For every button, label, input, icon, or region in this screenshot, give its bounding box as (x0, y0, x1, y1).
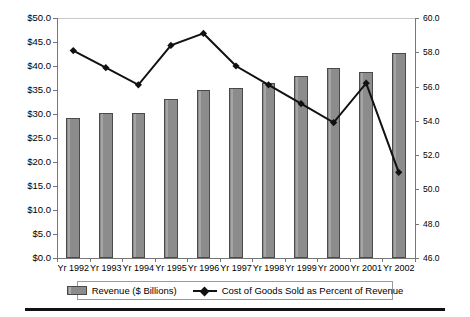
category-label: Yr 2000 (317, 264, 350, 273)
category-tick (90, 258, 91, 262)
right-tick (415, 52, 419, 53)
plot-area (57, 18, 415, 258)
right-tick-label: 60.0 (423, 14, 463, 23)
left-tick-label: $50.0 (5, 13, 51, 23)
category-label: Yr 1999 (285, 264, 318, 273)
right-tick-label: 48.0 (423, 220, 463, 229)
category-label: Yr 1997 (220, 264, 253, 273)
category-tick (220, 258, 221, 262)
bottom-axis-line (57, 258, 415, 259)
left-tick-label: $25.0 (5, 133, 51, 143)
right-tick (415, 87, 419, 88)
left-tick-label: $35.0 (5, 85, 51, 95)
chart-figure: $0.0$5.0$10.0$15.0$20.0$25.0$30.0$35.0$4… (0, 0, 470, 317)
left-tick-label: $10.0 (5, 205, 51, 215)
right-axis-line (415, 18, 416, 258)
bar-swatch-icon (67, 286, 87, 295)
left-tick-label: $5.0 (5, 229, 51, 239)
category-label: Yr 1996 (187, 264, 220, 273)
line-series-cogs-percent (57, 18, 415, 258)
left-tick-label: $30.0 (5, 109, 51, 119)
category-label: Yr 1995 (155, 264, 188, 273)
legend-item-cogs: Cost of Goods Sold as Percent of Revenue (193, 286, 404, 296)
legend-label-revenue: Revenue ($ Billions) (92, 286, 177, 296)
left-tick-label: $15.0 (5, 181, 51, 191)
legend-item-revenue: Revenue ($ Billions) (67, 286, 177, 296)
chart-legend: Revenue ($ Billions) Cost of Goods Sold … (77, 281, 393, 300)
left-tick-label: $20.0 (5, 157, 51, 167)
category-tick (187, 258, 188, 262)
category-tick (252, 258, 253, 262)
right-tick-label: 46.0 (423, 254, 463, 263)
line-marker (395, 169, 402, 176)
right-tick-label: 52.0 (423, 151, 463, 160)
category-label: Yr 2002 (382, 264, 415, 273)
category-tick (350, 258, 351, 262)
line-marker (102, 64, 109, 71)
line-marker (70, 47, 77, 54)
category-tick (155, 258, 156, 262)
category-label: Yr 1998 (252, 264, 285, 273)
right-tick (415, 224, 419, 225)
right-tick (415, 18, 419, 19)
left-tick-label: $40.0 (5, 61, 51, 71)
category-tick (317, 258, 318, 262)
category-tick (57, 258, 58, 262)
category-label: Yr 1994 (122, 264, 155, 273)
right-tick (415, 189, 419, 190)
category-label: Yr 1992 (57, 264, 90, 273)
right-tick-label: 56.0 (423, 83, 463, 92)
right-tick-label: 50.0 (423, 185, 463, 194)
line-path (73, 33, 398, 172)
category-label: Yr 1993 (90, 264, 123, 273)
legend-label-cogs: Cost of Goods Sold as Percent of Revenue (222, 286, 404, 296)
left-tick-label: $0.0 (5, 253, 51, 263)
category-tick (122, 258, 123, 262)
right-tick-label: 54.0 (423, 117, 463, 126)
left-tick-label: $45.0 (5, 37, 51, 47)
right-tick (415, 121, 419, 122)
category-tick (415, 258, 416, 262)
category-label: Yr 2001 (350, 264, 383, 273)
right-tick-label: 58.0 (423, 48, 463, 57)
line-diamond-icon (193, 286, 217, 295)
footer-rule (25, 308, 445, 311)
category-tick (382, 258, 383, 262)
right-tick (415, 155, 419, 156)
category-tick (285, 258, 286, 262)
